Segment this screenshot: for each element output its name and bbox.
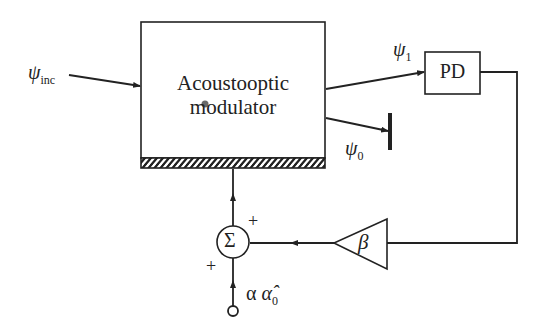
psi-0-symbol: ψ (345, 137, 357, 159)
feedback-wire (387, 72, 517, 243)
beta-label-text: β (358, 230, 368, 254)
modulator-label-line1: Acoustooptic (141, 71, 325, 95)
modulator-label: Acoustooptic modulator (141, 71, 325, 119)
psi-inc-subscript: inc (40, 73, 55, 87)
arrowhead-left (290, 240, 298, 246)
sigma-label: Σ (224, 229, 236, 252)
psi-inc-label: ψinc (28, 61, 55, 84)
sigma-label-text: Σ (224, 229, 236, 251)
input-terminal (228, 306, 238, 316)
psi-0-label: ψ0 (345, 137, 363, 160)
arrowhead-up-input (230, 280, 236, 288)
incident-beam-arrow (69, 75, 140, 86)
zero-order-beam-arrow (326, 118, 388, 131)
input-label: α α̂0 (246, 282, 278, 305)
plus-top: + (248, 211, 258, 232)
psi-1-label: ψ1 (393, 38, 411, 61)
pd-label: PD (425, 60, 480, 83)
psi-1-symbol: ψ (393, 38, 405, 60)
plus-left: + (206, 256, 216, 277)
beta-label: β (358, 230, 368, 255)
transducer-hatch (141, 158, 325, 168)
alpha-hat-symbol: α̂ (261, 282, 272, 304)
proportional-symbol: α (246, 282, 256, 304)
alpha-hat-subscript: 0 (272, 294, 278, 308)
first-order-beam-arrow (326, 72, 424, 89)
psi-1-subscript: 1 (405, 50, 411, 64)
psi-inc-symbol: ψ (28, 61, 40, 83)
modulator-label-line2: modulator (141, 95, 325, 119)
arrowhead-up (230, 193, 236, 201)
plus-top-text: + (248, 211, 258, 231)
psi-0-subscript: 0 (357, 149, 363, 163)
pd-label-text: PD (440, 60, 466, 82)
plus-left-text: + (206, 256, 216, 276)
